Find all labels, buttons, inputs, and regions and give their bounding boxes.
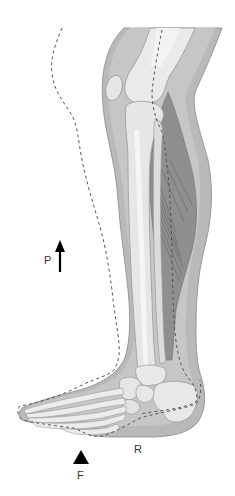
diagram-canvas: [0, 0, 235, 496]
force-triangle-icon: [73, 450, 89, 464]
arrow-up-icon: [55, 240, 65, 272]
leg-anatomy-diagram: P F R: [0, 0, 235, 496]
label-f: F: [77, 470, 84, 481]
label-p: P: [44, 255, 51, 266]
label-r: R: [134, 444, 142, 455]
